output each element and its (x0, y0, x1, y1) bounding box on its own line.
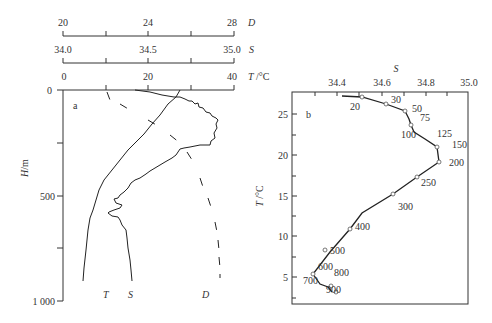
depth-label-400: 400 (355, 221, 370, 232)
b-y-tick-15: 15 (278, 191, 288, 202)
figure: 20 24 28 D 34.0 34.5 35.0 S 0 20 (0, 0, 492, 323)
d-tick-28: 28 (227, 17, 237, 28)
b-y-tick-20: 20 (278, 150, 288, 161)
t-tick-40: 40 (227, 71, 237, 82)
b-x-axis-label: S (394, 63, 399, 74)
s-tick-34-5: 34.5 (139, 44, 157, 55)
axis-t: 0 20 40 T /°C (57, 71, 270, 90)
panel-b-label: b (306, 109, 311, 120)
depth-tick-1000: 1 000 (33, 296, 56, 307)
depth-label-125: 125 (437, 128, 452, 139)
t-tick-0: 0 (62, 71, 67, 82)
depth-label-500: 500 (330, 245, 345, 256)
d-tick-24: 24 (143, 17, 153, 28)
b-y-tick-10: 10 (278, 231, 288, 242)
b-y-axis-label: T /°C (254, 185, 265, 207)
b-x-tick-35-0: 35.0 (460, 77, 478, 88)
d-curve (107, 92, 220, 278)
t-curve (83, 90, 180, 281)
s-tick-35-0: 35.0 (223, 44, 241, 55)
s-curve (108, 90, 218, 281)
b-x-tick-34-6: 34.6 (373, 77, 391, 88)
b-y-tick-25: 25 (278, 109, 288, 120)
d-tick-20: 20 (58, 17, 68, 28)
depth-tick-0: 0 (47, 85, 52, 96)
panel-a: 20 24 28 D 34.0 34.5 35.0 S 0 20 (19, 17, 270, 307)
depth-label-20: 20 (350, 101, 360, 112)
depth-label-300: 300 (398, 201, 413, 212)
axis-s: 34.0 34.5 35.0 S (54, 44, 254, 63)
axis-d: 20 24 28 D (58, 17, 256, 36)
t-tick-20: 20 (143, 71, 153, 82)
t-axis-name: T /°C (248, 71, 270, 82)
depth-label-250: 250 (421, 177, 436, 188)
depth-axis-label: H/m (19, 159, 30, 178)
d-curve-label: D (201, 289, 210, 300)
axis-depth: 0 500 1 000 H/m (19, 85, 63, 307)
t-curve-label: T (103, 289, 110, 300)
depth-label-150: 150 (452, 139, 467, 150)
panel-b: 34.4 34.6 34.8 35.0 S 25 20 15 10 5 T /°… (254, 63, 478, 304)
d-axis-name: D (247, 17, 256, 28)
depth-label-30: 30 (391, 94, 401, 105)
b-x-tick-34-8: 34.8 (417, 77, 435, 88)
plot-frame (292, 92, 468, 304)
panel-a-label: a (73, 100, 78, 111)
b-y-tick-5: 5 (283, 272, 288, 283)
axis-t-left: 25 20 15 10 5 T /°C (254, 109, 297, 298)
depth-labels: 20 30 50 75 100 125 150 200 250 300 400 … (303, 94, 467, 295)
depth-label-700: 700 (303, 275, 318, 286)
depth-label-75: 75 (420, 112, 430, 123)
s-tick-34-0: 34.0 (54, 44, 72, 55)
depth-label-100: 100 (401, 129, 416, 140)
s-curve-label: S (128, 289, 133, 300)
s-axis-name: S (249, 44, 254, 55)
b-x-tick-34-4: 34.4 (328, 77, 346, 88)
depth-label-600: 600 (318, 261, 333, 272)
axis-s-top: 34.4 34.6 34.8 35.0 S (315, 63, 478, 96)
depth-label-800: 800 (334, 267, 349, 278)
depth-label-200: 200 (449, 157, 464, 168)
depth-tick-500: 500 (40, 191, 55, 202)
depth-label-900: 900 (326, 284, 341, 295)
